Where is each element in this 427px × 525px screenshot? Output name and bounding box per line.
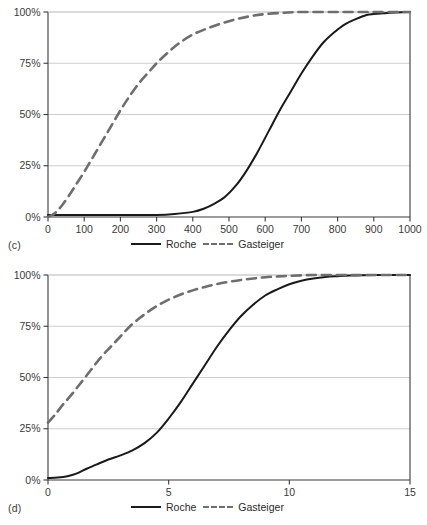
svg-text:50%: 50% — [19, 108, 40, 120]
svg-text:25%: 25% — [19, 422, 40, 434]
svg-text:100%: 100% — [14, 6, 41, 18]
chart-svg-c: 0%25%50%75%100%0100200300400500600700800… — [0, 0, 427, 262]
svg-text:500: 500 — [220, 223, 238, 235]
svg-text:200: 200 — [112, 223, 130, 235]
legend-swatch-solid-line-icon — [131, 243, 161, 245]
svg-text:5: 5 — [166, 486, 172, 498]
svg-text:800: 800 — [329, 223, 347, 235]
legend-panel-c: Roche Gasteiger — [131, 238, 284, 250]
svg-text:15: 15 — [404, 486, 416, 498]
svg-text:10: 10 — [283, 486, 295, 498]
svg-text:400: 400 — [184, 223, 202, 235]
figure-container: 0%25%50%75%100%0100200300400500600700800… — [0, 0, 427, 525]
panel-tag-c: (c) — [8, 239, 21, 251]
chart-panel-d: 0%25%50%75%100%051015 — [0, 262, 427, 525]
chart-svg-d: 0%25%50%75%100%051015 — [0, 262, 427, 525]
svg-text:25%: 25% — [19, 159, 40, 171]
svg-text:1000: 1000 — [398, 223, 422, 235]
legend-item-roche-c: Roche — [131, 238, 196, 250]
panel-tag-d: (d) — [8, 502, 21, 514]
legend-label-gasteiger: Gasteiger — [238, 238, 284, 250]
legend-label-roche: Roche — [166, 238, 196, 250]
svg-text:50%: 50% — [19, 371, 40, 383]
svg-text:75%: 75% — [19, 320, 40, 332]
svg-text:700: 700 — [293, 223, 311, 235]
legend-panel-d: Roche Gasteiger — [131, 501, 284, 513]
svg-text:900: 900 — [365, 223, 383, 235]
legend-swatch-dashed-line-icon — [203, 506, 233, 508]
legend-swatch-solid-line-icon — [131, 506, 161, 508]
legend-label-gasteiger: Gasteiger — [238, 501, 284, 513]
svg-text:0%: 0% — [25, 474, 40, 486]
legend-item-gasteiger-c: Gasteiger — [203, 238, 284, 250]
legend-swatch-dashed-line-icon — [203, 243, 233, 245]
svg-text:0: 0 — [45, 223, 51, 235]
svg-text:100%: 100% — [14, 269, 41, 281]
legend-item-gasteiger-d: Gasteiger — [203, 501, 284, 513]
chart-panel-c: 0%25%50%75%100%0100200300400500600700800… — [0, 0, 427, 262]
svg-text:600: 600 — [256, 223, 274, 235]
svg-text:0%: 0% — [25, 211, 40, 223]
svg-text:100: 100 — [75, 223, 93, 235]
svg-text:75%: 75% — [19, 57, 40, 69]
svg-text:0: 0 — [45, 486, 51, 498]
legend-label-roche: Roche — [166, 501, 196, 513]
legend-item-roche-d: Roche — [131, 501, 196, 513]
svg-text:300: 300 — [148, 223, 166, 235]
